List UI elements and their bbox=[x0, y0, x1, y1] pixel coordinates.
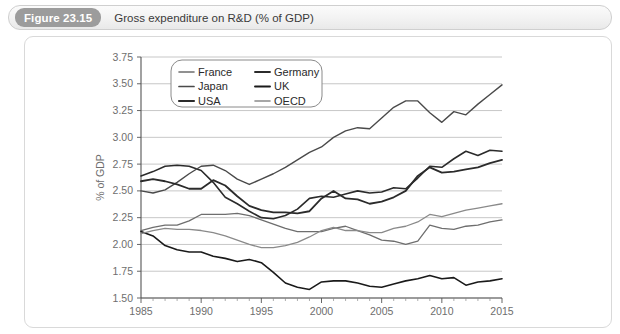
figure-number-badge: Figure 23.15 bbox=[15, 8, 101, 27]
figure-caption-text: Gross expenditure on R&D (% of GDP) bbox=[114, 12, 313, 24]
chart-panel bbox=[24, 36, 612, 328]
figure-caption-bar: Figure 23.15 Gross expenditure on R&D (%… bbox=[8, 5, 612, 30]
figure-card: Figure 23.15 Gross expenditure on R&D (%… bbox=[0, 0, 620, 334]
